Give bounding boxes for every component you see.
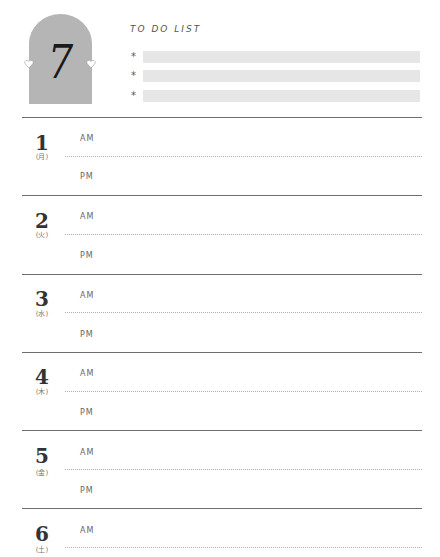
heart-icon-left <box>24 59 34 69</box>
am-pm-divider <box>65 156 422 157</box>
day-number: 4 <box>28 367 56 387</box>
day-number: 5 <box>28 446 56 466</box>
day-4-pm-slot[interactable] <box>76 397 422 427</box>
day-number: 2 <box>28 211 56 231</box>
bullet-icon: * <box>131 70 136 82</box>
todo-input[interactable] <box>143 51 420 63</box>
day-6-am-slot[interactable] <box>76 515 422 545</box>
day-3-am-slot[interactable] <box>76 280 422 310</box>
month-number: 7 <box>29 37 92 88</box>
todo-item[interactable]: * <box>131 90 421 102</box>
heart-icon-right <box>86 59 96 69</box>
day-4-am-slot[interactable] <box>76 358 422 388</box>
am-pm-divider <box>65 469 422 470</box>
am-pm-divider <box>65 547 422 548</box>
day-number: 1 <box>28 133 56 153</box>
day-weekday: (火) <box>28 231 56 239</box>
day-5-pm-slot[interactable] <box>76 475 422 505</box>
todo-input[interactable] <box>143 90 420 102</box>
am-pm-divider <box>65 234 422 235</box>
am-pm-divider <box>65 312 422 313</box>
day-weekday: (月) <box>28 153 56 161</box>
day-divider <box>22 508 422 509</box>
todo-item[interactable]: * <box>131 70 421 82</box>
day-divider <box>22 195 422 196</box>
day-divider <box>22 352 422 353</box>
day-weekday: (金) <box>28 469 56 477</box>
am-pm-divider <box>65 391 422 392</box>
day-divider <box>22 274 422 275</box>
bullet-icon: * <box>131 51 136 63</box>
todo-item[interactable]: * <box>131 51 421 63</box>
day-divider <box>22 117 422 118</box>
day-number: 3 <box>28 289 56 309</box>
todo-input[interactable] <box>143 70 420 82</box>
day-2-pm-slot[interactable] <box>76 240 422 270</box>
day-5-am-slot[interactable] <box>76 437 422 467</box>
day-number: 6 <box>28 524 56 544</box>
day-2-am-slot[interactable] <box>76 202 422 232</box>
bullet-icon: * <box>131 90 136 102</box>
day-weekday: (土) <box>28 546 56 554</box>
day-1-am-slot[interactable] <box>76 124 422 154</box>
day-weekday: (水) <box>28 310 56 318</box>
day-3-pm-slot[interactable] <box>76 318 422 348</box>
day-divider <box>22 430 422 431</box>
todo-title: TO DO LIST <box>130 24 201 34</box>
day-1-pm-slot[interactable] <box>76 162 422 192</box>
day-weekday: (木) <box>28 388 56 396</box>
